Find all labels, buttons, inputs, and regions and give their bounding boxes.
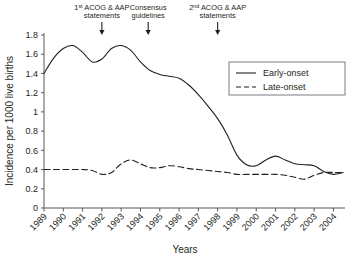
y-tick-label: 0 [33, 203, 38, 213]
y-tick-label: 0.6 [25, 146, 38, 156]
y-tick-label: 1 [33, 107, 38, 117]
annotation-line-2: statements [84, 11, 120, 20]
figure-container: 00.20.40.60.811.21.41.61.8 1989199019911… [0, 0, 358, 263]
y-tick-label: 0.2 [25, 184, 38, 194]
y-axis-title: Incidence per 1000 live births [4, 56, 15, 186]
y-tick-label: 1.8 [25, 30, 38, 40]
annotation-line-2: statements [200, 11, 236, 20]
x-axis-title: Years [172, 244, 197, 255]
incidence-line-chart: 00.20.40.60.811.21.41.61.8 1989199019911… [0, 0, 358, 263]
y-tick-label: 1.4 [25, 69, 38, 79]
y-tick-label: 1.2 [25, 88, 38, 98]
legend-label-late-onset: Late-onset [263, 82, 306, 92]
annotation-line-2: guidelines [132, 11, 166, 20]
legend-label-early-onset: Early-onset [263, 68, 309, 78]
chart-legend: Early-onsetLate-onset [229, 62, 345, 95]
y-tick-label: 0.8 [25, 126, 38, 136]
y-tick-label: 0.4 [25, 165, 38, 175]
y-tick-label: 1.6 [25, 49, 38, 59]
